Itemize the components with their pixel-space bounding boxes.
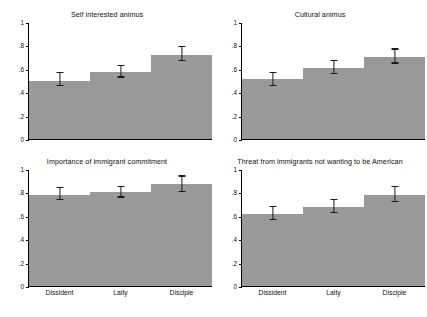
bar-slot-dissident <box>29 170 90 286</box>
x-axis-line <box>28 139 212 140</box>
bar[interactable] <box>364 57 425 139</box>
error-bar-cap-lower <box>56 85 63 86</box>
error-bar-cap-upper <box>117 65 124 66</box>
error-bar-cap-upper <box>391 48 398 49</box>
y-tick-label: .4 <box>19 237 24 243</box>
y-tick-label: .6 <box>19 67 24 73</box>
y-tick-label: .2 <box>232 113 237 119</box>
bar[interactable] <box>29 81 90 140</box>
bar[interactable] <box>242 79 303 139</box>
y-tick-label: .6 <box>232 214 237 220</box>
error-bar-cap-upper <box>56 187 63 188</box>
y-tick-label: .8 <box>232 43 237 49</box>
bar[interactable] <box>151 55 212 139</box>
y-tick-label: 1 <box>20 167 24 173</box>
bar-slot-dissident <box>242 23 303 139</box>
plot-area: 0.2.4.6.81 <box>241 23 425 140</box>
error-bar-cap-lower <box>330 73 337 74</box>
bar-slot-disciple <box>364 170 425 286</box>
y-tick-label: 1 <box>233 20 237 26</box>
x-axis-labels: DissidentLaityDisciple <box>29 289 212 297</box>
error-bar-cap-upper <box>330 60 337 61</box>
error-bar-cap-lower <box>269 85 276 86</box>
error-bar-cap-upper <box>178 46 185 47</box>
panel-title: Cultural animus <box>213 10 427 19</box>
panel-title: Importance of immigrant commitment <box>0 157 214 166</box>
x-tick-label-dissident: Dissident <box>242 289 303 297</box>
panel-importance-of-immigrant-commitment: Importance of immigrant commitment0.2.4.… <box>0 157 214 317</box>
bar-group <box>242 23 425 139</box>
panel-title: Self interested animus <box>0 10 214 19</box>
y-tick-label: .8 <box>19 190 24 196</box>
bar-slot-disciple <box>364 23 425 139</box>
error-bar-cap-upper <box>391 186 398 187</box>
x-tick-label-laity: Laity <box>90 289 151 297</box>
error-bar-cap-lower <box>269 219 276 220</box>
x-tick-label-disciple: Disciple <box>151 289 212 297</box>
y-tick-label: 0 <box>20 284 24 290</box>
y-tick-label: .6 <box>232 67 237 73</box>
error-bar-cap-lower <box>178 191 185 192</box>
x-axis-labels: DissidentLaityDisciple <box>242 289 425 297</box>
bar-slot-laity <box>303 23 364 139</box>
panel-threat-from-immigrants-not-wanting-to-be-american: Threat from immigrants not wanting to be… <box>213 157 427 317</box>
panel-cultural-animus: Cultural animus0.2.4.6.81 <box>213 10 427 160</box>
y-tick-label: .2 <box>19 113 24 119</box>
bar-slot-laity <box>90 170 151 286</box>
error-bar <box>181 177 182 192</box>
bar[interactable] <box>303 207 364 286</box>
error-bar-cap-upper <box>330 199 337 200</box>
y-tick-label: .2 <box>232 260 237 266</box>
bar-slot-dissident <box>242 170 303 286</box>
bar-slot-disciple <box>151 170 212 286</box>
error-bar-cap-lower <box>117 76 124 77</box>
x-tick-label-disciple: Disciple <box>364 289 425 297</box>
y-tick <box>26 140 29 141</box>
error-bar-cap-upper <box>178 175 185 176</box>
bar-group <box>29 23 212 139</box>
bar[interactable] <box>90 72 151 139</box>
x-tick-label-dissident: Dissident <box>29 289 90 297</box>
bar[interactable] <box>303 68 364 139</box>
y-tick-label: 0 <box>233 137 237 143</box>
y-tick-label: .8 <box>19 43 24 49</box>
plot-area: 0.2.4.6.81 <box>28 23 212 140</box>
y-tick-label: .4 <box>232 237 237 243</box>
bar-group <box>29 170 212 286</box>
error-bar-cap-lower <box>56 199 63 200</box>
plot-area: 0.2.4.6.81 <box>28 170 212 287</box>
y-tick-label: .2 <box>19 260 24 266</box>
error-bar-cap-lower <box>117 196 124 197</box>
y-tick-label: 0 <box>20 137 24 143</box>
x-axis-line <box>241 139 425 140</box>
bar-slot-laity <box>90 23 151 139</box>
error-bar-cap-lower <box>391 201 398 202</box>
y-tick <box>239 287 242 288</box>
y-tick <box>239 140 242 141</box>
x-axis-line <box>28 286 212 287</box>
error-bar-cap-upper <box>269 72 276 73</box>
y-tick-label: 1 <box>233 167 237 173</box>
bar[interactable] <box>29 195 90 286</box>
error-bar-cap-upper <box>269 206 276 207</box>
y-tick-label: .8 <box>232 190 237 196</box>
error-bar <box>394 187 395 202</box>
error-bar-cap-upper <box>56 72 63 73</box>
bar-slot-dissident <box>29 23 90 139</box>
panel-self-interested-animus: Self interested animus0.2.4.6.81 <box>0 10 214 160</box>
chart-figure: Self interested animus0.2.4.6.81Cultural… <box>0 0 427 317</box>
x-tick-label-laity: Laity <box>303 289 364 297</box>
y-tick-label: .6 <box>19 214 24 220</box>
plot-area: 0.2.4.6.81 <box>241 170 425 287</box>
bar[interactable] <box>90 192 151 286</box>
error-bar-cap-lower <box>391 62 398 63</box>
bar[interactable] <box>151 184 212 286</box>
bar[interactable] <box>242 214 303 286</box>
y-tick <box>26 287 29 288</box>
error-bar-cap-upper <box>117 186 124 187</box>
error-bar-cap-lower <box>178 60 185 61</box>
bar-slot-disciple <box>151 23 212 139</box>
y-tick-label: .4 <box>232 90 237 96</box>
panel-title: Threat from immigrants not wanting to be… <box>213 157 427 166</box>
bar[interactable] <box>364 195 425 286</box>
